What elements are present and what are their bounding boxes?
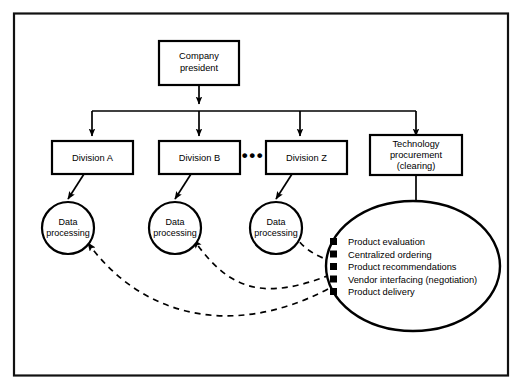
data-processing-b-label-line1: Data [165, 217, 184, 227]
bullet-square-4 [330, 276, 337, 283]
technology-procurement-label-line3: (clearing) [397, 161, 436, 171]
node-company-president[interactable]: Company president [159, 41, 239, 85]
connector-division-z-to-data-processing [276, 174, 292, 199]
org-chart-diagram: Company president Division A Division B … [0, 0, 524, 391]
node-data-processing-z[interactable]: Data processing [250, 202, 302, 254]
bullet-square-3 [330, 263, 337, 270]
division-b-label: Division B [179, 153, 220, 163]
division-z-label: Division Z [286, 153, 327, 163]
clearing-bullet-3: Product recommendations [348, 262, 457, 272]
node-division-b[interactable]: Division B [159, 141, 240, 174]
company-president-label-line1: Company [179, 51, 219, 61]
clearing-bullet-1: Product evaluation [348, 237, 425, 247]
connector-division-b-to-data-processing [175, 174, 191, 199]
data-processing-a-label-line1: Data [58, 217, 77, 227]
technology-procurement-label-line1: Technology [392, 139, 439, 149]
data-processing-z-label-line2: processing [254, 228, 298, 238]
clearing-bullet-2: Centralized ordering [348, 250, 432, 260]
bullet-square-2 [330, 251, 337, 258]
diagram-page: Company president Division A Division B … [0, 0, 524, 391]
clearing-bullet-4: Vendor interfacing (negotiation) [348, 275, 477, 285]
node-data-processing-b[interactable]: Data processing [149, 202, 201, 254]
data-processing-a-label-line2: processing [46, 228, 90, 238]
bullet-square-1 [330, 238, 337, 245]
node-clearing-house[interactable]: Product evaluation Centralized ordering … [326, 201, 500, 331]
clearing-bullet-5: Product delivery [348, 287, 415, 297]
division-a-label: Division A [72, 153, 114, 163]
connector-division-a-to-data-processing [68, 174, 84, 199]
node-division-z[interactable]: Division Z [266, 141, 347, 174]
bullet-square-5 [330, 288, 337, 295]
data-processing-b-label-line2: processing [153, 228, 197, 238]
node-data-processing-a[interactable]: Data processing [42, 202, 94, 254]
company-president-label-line2: president [180, 63, 219, 73]
divisions-ellipsis: ••• [242, 146, 264, 165]
node-technology-procurement[interactable]: Technology procurement (clearing) [370, 135, 462, 175]
connector-clearing-to-data-processing-a [88, 243, 328, 316]
node-division-a[interactable]: Division A [52, 141, 133, 174]
data-processing-z-label-line1: Data [266, 217, 285, 227]
technology-procurement-label-line2: procurement [390, 150, 443, 160]
